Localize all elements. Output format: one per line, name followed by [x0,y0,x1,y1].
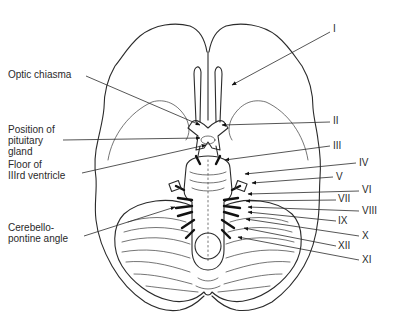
label-nerve-III: III [225,140,341,160]
nerve-number: XII [338,240,350,251]
nerve-number: I [333,23,336,34]
label-text: Cerebello- [8,222,54,233]
label-nerve-I: I [232,23,336,85]
left-labels: Optic chiasmaPosition ofpituitaryglandFl… [8,69,206,244]
label-nerve-V: V [252,171,343,183]
label-cerebellopontine: Cerebello-pontine angle [8,207,175,244]
nerve-number: IX [338,215,348,226]
cerebrum-outline [95,24,320,310]
label-third-ventricle: Floor ofIIIrd ventricle [8,145,206,181]
label-text: Position of [8,124,55,135]
brain-base-diagram: Optic chiasmaPosition ofpituitaryglandFl… [0,0,396,329]
nerve-number: VIII [362,205,377,216]
leader-line [252,177,333,183]
leader-line [222,122,330,125]
nerve-number: V [336,171,343,182]
label-text: Floor of [8,159,42,170]
nerve-number: IV [359,157,369,168]
leader-line [84,207,175,236]
label-text: pontine angle [8,233,68,244]
leader-line [82,145,206,173]
nerve-number: VII [338,193,350,204]
optic-chiasma [188,121,228,150]
label-nerve-IV: IV [245,157,369,174]
label-nerve-VI: VI [248,184,371,195]
nerve-number: XI [362,254,371,265]
label-pituitary: Position ofpituitarygland [8,124,200,157]
label-optic-chiasma: Optic chiasma [8,69,200,125]
label-nerve-VII: VII [246,193,350,204]
nerve-number: II [333,115,339,126]
leader-line [248,207,359,211]
label-nerve-II: II [222,115,339,126]
nerve-number: VI [362,184,371,195]
nerve-number: III [333,140,341,151]
brainstem [184,146,232,270]
leader-line [225,146,330,160]
label-text: pituitary [8,135,43,146]
leader-line [63,138,200,140]
label-text: Optic chiasma [8,69,72,80]
label-nerve-XII: XII [244,228,350,251]
label-text: IIIrd ventricle [8,170,66,181]
leader-line [246,200,336,201]
nerve-number: X [362,230,369,241]
label-text: gland [8,146,32,157]
